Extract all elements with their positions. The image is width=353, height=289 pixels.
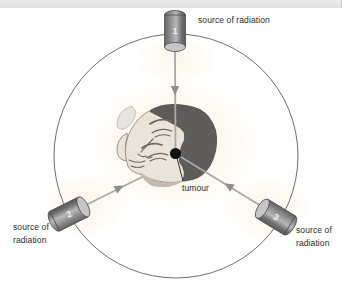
tumour-label: tumour: [182, 182, 209, 195]
figure-canvas: 1 2 3 source of radiation source of radi…: [0, 0, 353, 289]
radiation-beam-1: [175, 48, 176, 151]
source-label-1: source of radiation: [198, 14, 270, 27]
radiation-source-cylinder-1: 1: [165, 11, 186, 52]
tumour-dot: [170, 148, 181, 159]
source-number-1: 1: [172, 26, 177, 36]
source-label-2: source of radiation: [13, 221, 57, 247]
source-label-3: source of radiation: [296, 224, 340, 250]
top-bar: [0, 0, 342, 8]
